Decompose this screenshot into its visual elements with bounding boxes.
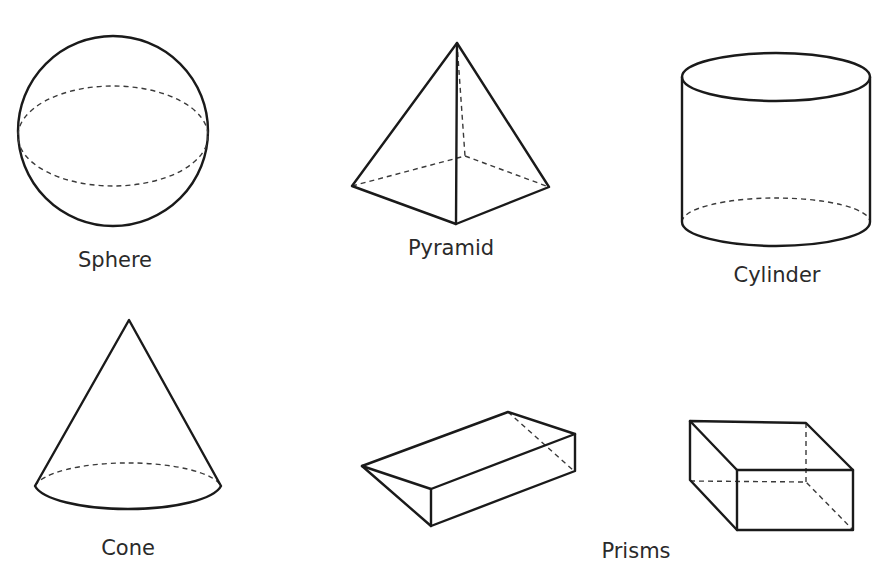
prisms-label: Prisms [601, 539, 670, 563]
sphere-label: Sphere [78, 248, 152, 272]
box-outline [690, 421, 853, 530]
rectangular-prism-shape [690, 421, 853, 530]
pyramid-front-edge [456, 43, 457, 224]
triangular-prism-shape [362, 412, 575, 526]
cone-outline [35, 320, 221, 509]
cone-hidden-base-arc [35, 463, 221, 486]
wedge-hidden-edge [508, 412, 574, 471]
cylinder-label: Cylinder [734, 263, 821, 287]
pyramid-label: Pyramid [408, 236, 494, 260]
sphere-equator-dashed [18, 86, 208, 186]
pyramid-shape [352, 43, 549, 224]
pyramid-hidden-lateral-edge [457, 43, 465, 156]
sphere-shape [18, 36, 208, 226]
cylinder-hidden-base-arc [682, 198, 870, 222]
cylinder-shape [682, 53, 870, 246]
sphere-outline [18, 36, 208, 226]
cylinder-sides-and-base [682, 77, 870, 246]
solid-shapes-diagram [0, 0, 884, 583]
cylinder-top-face [682, 53, 870, 101]
wedge-outline [362, 412, 575, 526]
pyramid-outline [352, 43, 549, 224]
pyramid-hidden-base-edges [352, 156, 549, 187]
wedge-top-ridge [362, 434, 575, 489]
cone-label: Cone [101, 536, 155, 560]
cone-shape [35, 320, 221, 509]
